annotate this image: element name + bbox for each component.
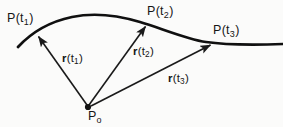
point-label-p-t2-close: ) xyxy=(169,4,174,18)
space-curve xyxy=(18,15,283,47)
origin-label-sub: o xyxy=(96,115,101,125)
figure-canvas xyxy=(0,0,283,127)
origin-label: Po xyxy=(88,110,102,125)
point-label-p-t3: P(t3) xyxy=(213,24,240,39)
point-label-p-t2: P(t2) xyxy=(147,5,174,20)
point-label-p-t1: P(t1) xyxy=(7,12,34,27)
vector-label-r-t1: r(t1) xyxy=(62,53,83,67)
vector-label-r-t3: r(t3) xyxy=(168,73,189,87)
position-vector-figure: P(t1) P(t2) P(t3) r(t1) r(t2) r(t3) Po xyxy=(0,0,283,127)
vector-label-r-t2-close: ) xyxy=(150,45,154,57)
vector-r-t1 xyxy=(39,37,88,106)
point-label-p-t1-close: ) xyxy=(29,11,34,25)
vector-label-r-t3-sub: 3 xyxy=(180,77,185,86)
vector-label-r-t2: r(t2) xyxy=(133,46,154,60)
vector-label-r-t1-close: ) xyxy=(79,52,83,64)
vector-label-r-t3-close: ) xyxy=(185,72,189,84)
point-label-p-t3-close: ) xyxy=(235,23,240,37)
vector-label-r-t1-sub: 1 xyxy=(74,57,79,66)
vector-label-r-t2-sub: 2 xyxy=(145,50,150,59)
